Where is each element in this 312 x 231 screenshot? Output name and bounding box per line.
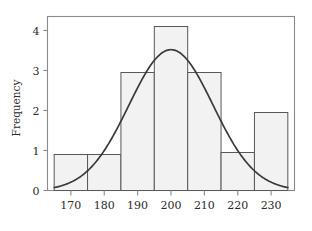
x-tick-label: 180 xyxy=(94,199,115,212)
y-tick-label: 4 xyxy=(33,25,40,38)
histogram-bar xyxy=(188,73,221,191)
histogram-bar xyxy=(154,27,187,191)
histogram-bar xyxy=(54,155,87,191)
y-tick-label: 1 xyxy=(33,145,40,158)
x-tick-label: 200 xyxy=(161,199,182,212)
histogram-bar xyxy=(121,73,154,191)
x-tick-label: 230 xyxy=(261,199,282,212)
histogram-chart: 01234 170180190200210220230 Frequency xyxy=(0,0,312,231)
x-tick-label: 220 xyxy=(227,199,248,212)
y-tick-label: 2 xyxy=(33,105,40,118)
histogram-bar xyxy=(221,153,254,191)
chart-canvas: 01234 170180190200210220230 Frequency xyxy=(0,0,312,231)
y-axis-title: Frequency xyxy=(10,80,22,137)
histogram-bar xyxy=(88,155,121,191)
y-tick-label: 3 xyxy=(33,65,40,78)
x-tick-label: 190 xyxy=(127,199,148,212)
x-tick-label: 210 xyxy=(194,199,215,212)
y-tick-label: 0 xyxy=(33,185,40,198)
x-tick-label: 170 xyxy=(60,199,81,212)
histogram-bar xyxy=(254,113,287,191)
